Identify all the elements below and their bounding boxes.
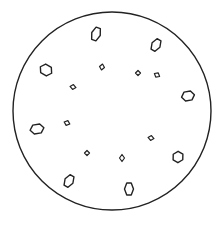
hexagon-shape [149, 38, 163, 53]
hexagon-shape [181, 90, 195, 101]
outer-circle [13, 12, 211, 210]
diamond-shape [153, 71, 161, 78]
diamond-shape [63, 120, 70, 127]
hexagon-shape [29, 123, 44, 134]
diamond-shape [120, 155, 125, 162]
diamond-shape [85, 151, 90, 156]
diamond-shape [148, 135, 155, 141]
diamond-shape [136, 71, 141, 76]
hexagon-shape [62, 174, 76, 189]
hexagon-shape [125, 183, 134, 195]
diagram-canvas [0, 0, 222, 229]
diagram-svg [0, 0, 222, 229]
hexagon-shape [90, 26, 103, 41]
hexagon-shape [38, 62, 54, 77]
shapes-layer [29, 26, 195, 195]
diamond-shape [70, 84, 77, 90]
diamond-shape [99, 64, 105, 71]
hexagon-shape [171, 150, 186, 164]
